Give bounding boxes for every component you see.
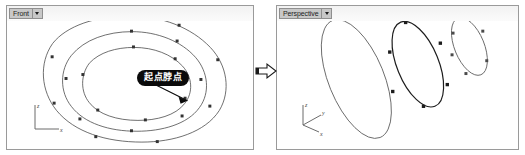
perspective-medium-ellipse <box>381 14 454 114</box>
view-label-perspective-text: Perspective <box>280 9 321 18</box>
figure-stage: 起点脖点 Front z x <box>0 0 525 155</box>
view-label-front[interactable]: Front <box>9 8 43 19</box>
start-end-callout: 起点脖点 <box>137 70 189 86</box>
right-arrow-icon <box>255 60 277 82</box>
axis-label-z: z <box>304 102 308 108</box>
axis-label-y: y <box>321 110 325 116</box>
front-vertex-markers <box>51 14 220 143</box>
viewport-header-strip <box>7 6 253 21</box>
viewport-front[interactable]: 起点脖点 Front z x <box>6 5 254 150</box>
axis-label-x: x <box>59 127 63 133</box>
front-outer-contour <box>43 16 226 142</box>
axis-label-z: z <box>36 103 40 109</box>
viewport-perspective[interactable]: Perspective z y x <box>276 5 519 150</box>
axis-gizmo-3d: z y x <box>295 99 339 139</box>
axis-gizmo-2d: z x <box>29 101 69 137</box>
view-label-perspective[interactable]: Perspective <box>279 8 332 19</box>
perspective-small-ellipse <box>444 13 495 81</box>
view-label-front-text: Front <box>10 9 32 18</box>
chevron-down-icon[interactable] <box>32 9 42 18</box>
perspective-small-vertex-markers <box>451 16 489 75</box>
chevron-down-icon[interactable] <box>321 9 331 18</box>
axis-label-x: x <box>319 131 323 137</box>
